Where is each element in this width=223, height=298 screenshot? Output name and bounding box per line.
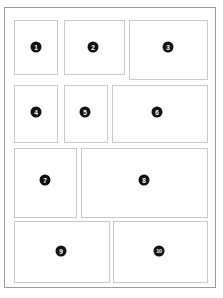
wireframe-canvas: 12345678910 [0, 0, 223, 298]
panel-number-badge-7: 7 [40, 175, 51, 186]
panel-number-badge-4: 4 [31, 107, 42, 118]
panel-number-badge-2: 2 [88, 42, 99, 53]
panel-number-badge-8: 8 [139, 175, 150, 186]
panel-number-badge-3: 3 [163, 42, 174, 53]
panel-number-badge-10: 10 [154, 246, 165, 257]
panel-number-badge-5: 5 [80, 107, 91, 118]
panel-number-badge-6: 6 [152, 107, 163, 118]
panel-number-badge-9: 9 [56, 246, 67, 257]
panel-number-badge-1: 1 [31, 42, 42, 53]
